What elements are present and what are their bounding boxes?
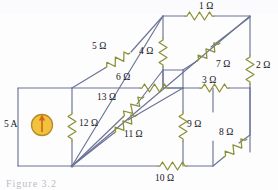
figure-canvas: 5 A 1 Ω 2 Ω 3 Ω 4 Ω 5 Ω 6 Ω 7 Ω 8 Ω 9 Ω … [0,0,278,190]
resistor-13-label: 13 Ω [97,93,116,103]
resistor-2-label: 2 Ω [256,61,270,71]
resistor-9-label: 9 Ω [187,120,201,130]
resistor-3-label: 3 Ω [202,76,216,86]
figure-caption: Figure 3.2 [6,178,57,189]
resistor-5-symbol [103,50,132,72]
source-label: 5 A [4,119,17,129]
resistor-4-symbol [159,38,167,67]
current-source-symbol [32,115,53,136]
resistor-5-label: 5 Ω [92,42,106,52]
resistor-8-label: 8 Ω [219,128,233,138]
resistor-11-label: 11 Ω [124,130,143,140]
resistor-12-label: 12 Ω [79,119,98,129]
resistor-7-label: 7 Ω [216,60,230,70]
resistor-10-label: 10 Ω [155,174,174,184]
resistor-2-symbol [246,55,254,84]
junction-dots [71,165,74,168]
wire-network [18,16,250,166]
wire-body-diagonal-1 [72,16,250,166]
resistor-8-symbol [222,136,250,160]
resistor-1-label: 1 Ω [199,2,213,12]
wire-13-diag-b [137,70,163,104]
resistor-12-symbol [68,112,76,141]
resistor-4-label: 4 Ω [139,47,153,57]
resistor-6-label: 6 Ω [116,73,130,83]
resistor-1-symbol [185,12,214,20]
circuit-schematic-svg [0,0,278,190]
resistor-9-symbol [179,112,187,141]
wire-tl-diag-lower [72,68,105,88]
wire-lr-diag-a [213,157,224,166]
